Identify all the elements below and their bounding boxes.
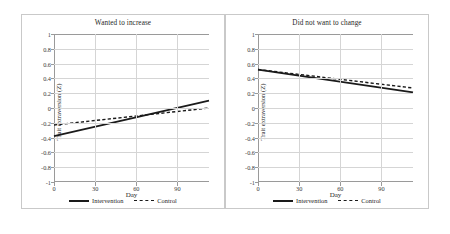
y-tick-label: 0 — [48, 105, 51, 112]
y-tick-label: 0.4 — [43, 75, 51, 82]
y-gridline — [54, 93, 209, 94]
y-gridline — [54, 138, 209, 139]
legend: Intervention Control — [22, 197, 224, 204]
y-tick-mark — [255, 49, 258, 50]
legend-item-control: Control — [338, 197, 381, 204]
y-tick-mark — [51, 78, 54, 79]
y-gridline — [54, 64, 209, 65]
x-gridline — [299, 34, 300, 182]
y-tick-label: 1 — [252, 31, 255, 38]
y-tick-label: 0.2 — [247, 90, 255, 97]
legend-item-intervention: Intervention — [69, 197, 123, 204]
y-gridline — [258, 78, 413, 79]
y-tick-label: -0.2 — [41, 119, 51, 126]
y-tick-mark — [51, 108, 54, 109]
y-tick-label: -0.6 — [41, 149, 51, 156]
y-tick-mark — [51, 123, 54, 124]
y-gridline — [258, 93, 413, 94]
legend-swatch-solid-icon — [273, 200, 293, 202]
y-tick-mark — [51, 64, 54, 65]
y-tick-label: 0.6 — [247, 60, 255, 67]
y-tick-mark — [51, 152, 54, 153]
x-gridline — [95, 34, 96, 182]
y-tick-mark — [255, 34, 258, 35]
y-tick-label: 0.2 — [43, 90, 51, 97]
y-tick-mark — [51, 167, 54, 168]
y-tick-label: -1 — [250, 179, 255, 186]
legend: Intervention Control — [226, 197, 428, 204]
y-tick-label: -0.4 — [245, 134, 255, 141]
legend-item-control: Control — [134, 197, 177, 204]
plot-area: 10.80.60.40.20-0.2-0.4-0.6-0.8-10306090 — [54, 34, 209, 182]
x-gridline — [340, 34, 341, 182]
y-tick-mark — [51, 34, 54, 35]
panel-title: Wanted to increase — [22, 19, 224, 27]
y-gridline — [54, 123, 209, 124]
figure-two-panel-line-charts: Wanted to increase Trait extraversion (Z… — [21, 14, 429, 209]
legend-item-intervention: Intervention — [273, 197, 327, 204]
legend-swatch-dashed-icon — [134, 200, 154, 201]
y-gridline — [258, 138, 413, 139]
y-gridline — [54, 78, 209, 79]
y-gridline — [258, 152, 413, 153]
y-tick-label: 0 — [252, 105, 255, 112]
y-tick-mark — [255, 152, 258, 153]
legend-swatch-dashed-icon — [338, 200, 358, 201]
legend-swatch-solid-icon — [69, 200, 89, 202]
y-gridline — [54, 108, 209, 109]
panel-title: Did not want to change — [226, 19, 428, 27]
legend-label: Intervention — [296, 197, 327, 204]
series-line-intervention — [54, 101, 209, 137]
legend-label: Control — [361, 197, 381, 204]
y-gridline — [54, 49, 209, 50]
x-gridline — [136, 34, 137, 182]
y-tick-mark — [255, 78, 258, 79]
legend-label: Control — [157, 197, 177, 204]
y-tick-mark — [255, 93, 258, 94]
y-tick-mark — [255, 123, 258, 124]
y-gridline — [258, 64, 413, 65]
y-tick-label: -0.8 — [245, 164, 255, 171]
y-tick-label: 1 — [48, 31, 51, 38]
y-gridline — [258, 167, 413, 168]
x-gridline — [177, 34, 178, 182]
y-tick-mark — [51, 138, 54, 139]
x-gridline — [381, 34, 382, 182]
y-gridline — [258, 49, 413, 50]
y-gridline — [258, 108, 413, 109]
legend-label: Intervention — [92, 197, 123, 204]
y-tick-mark — [255, 138, 258, 139]
y-tick-mark — [51, 93, 54, 94]
y-tick-label: -1 — [46, 179, 51, 186]
y-tick-mark — [255, 108, 258, 109]
y-tick-label: -0.8 — [41, 164, 51, 171]
panel-wanted-to-increase: Wanted to increase Trait extraversion (Z… — [21, 14, 225, 209]
y-tick-mark — [255, 167, 258, 168]
y-tick-label: -0.6 — [245, 149, 255, 156]
y-tick-label: 0.8 — [247, 45, 255, 52]
plot-area: 10.80.60.40.20-0.2-0.4-0.6-0.8-10306090 — [258, 34, 413, 182]
y-gridline — [54, 152, 209, 153]
y-tick-label: 0.6 — [43, 60, 51, 67]
y-tick-mark — [51, 49, 54, 50]
y-tick-label: 0.8 — [43, 45, 51, 52]
y-gridline — [54, 167, 209, 168]
y-tick-label: -0.2 — [245, 119, 255, 126]
y-gridline — [258, 123, 413, 124]
y-tick-label: 0.4 — [247, 75, 255, 82]
y-tick-mark — [255, 64, 258, 65]
panel-did-not-want-to-change: Did not want to change Trait extraversio… — [225, 14, 429, 209]
y-tick-label: -0.4 — [41, 134, 51, 141]
